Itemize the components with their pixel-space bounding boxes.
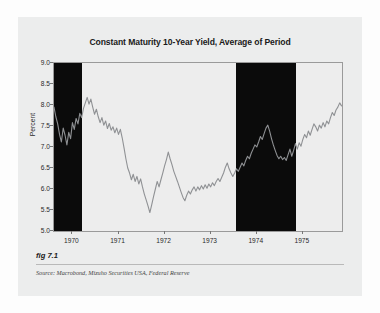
x-tick-mark	[71, 231, 72, 234]
x-tick-label: 1971	[110, 237, 125, 244]
y-tick-label: 7.5	[22, 122, 50, 129]
page-root: Constant Maturity 10-Year Yield, Average…	[0, 0, 380, 313]
x-tick-label: 1974	[248, 237, 263, 244]
y-tick-label: 6.0	[22, 185, 50, 192]
figure-caption: fig 7.1	[36, 251, 58, 260]
x-tick-label: 1970	[64, 237, 79, 244]
plot-area	[53, 62, 343, 232]
plot-container: 9.08.58.07.57.06.56.05.55.0 Percent 1970…	[18, 17, 362, 296]
y-tick-label: 8.5	[22, 80, 50, 87]
x-tick-mark	[118, 231, 119, 234]
x-tick-mark	[302, 231, 303, 234]
yield-line-chart	[54, 63, 342, 231]
figure-card: Constant Maturity 10-Year Yield, Average…	[18, 17, 362, 296]
x-tick-mark	[256, 231, 257, 234]
y-tick-label: 8.0	[22, 101, 50, 108]
series-line-yield	[54, 97, 342, 212]
x-tick-label: 1973	[202, 237, 217, 244]
y-tick-label: 7.0	[22, 143, 50, 150]
y-axis-label: Percent	[29, 95, 36, 155]
x-tick-mark	[164, 231, 165, 234]
x-tick-mark	[210, 231, 211, 234]
x-tick-label: 1975	[294, 237, 309, 244]
figure-source: Source: Macrobond, Mizuho Securities USA…	[36, 269, 190, 276]
caption-divider	[36, 264, 344, 265]
y-tick-label: 9.0	[22, 59, 50, 66]
y-tick-label: 6.5	[22, 164, 50, 171]
y-tick-label: 5.5	[22, 206, 50, 213]
x-axis-ticks: 197019711972197319741975	[53, 231, 343, 247]
y-tick-label: 5.0	[22, 227, 50, 234]
x-tick-label: 1972	[156, 237, 171, 244]
